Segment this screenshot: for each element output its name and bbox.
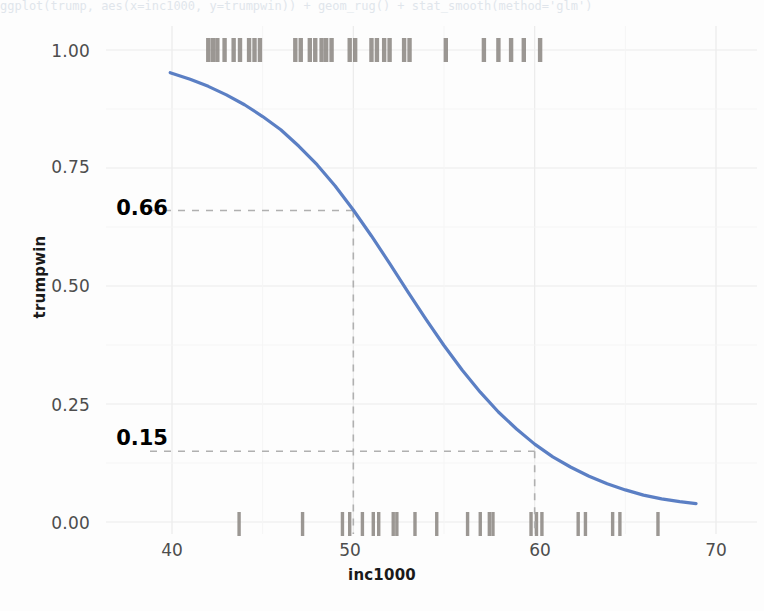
- y-tick-label-000: 0.00: [20, 513, 90, 533]
- annotation-label-066: 0.66: [88, 196, 168, 220]
- chart-canvas: [0, 0, 764, 611]
- chart-screenshot: ggplot(trump, aes(x=inc1000, y=trumpwin)…: [0, 0, 764, 611]
- x-tick-label-40: 40: [142, 540, 202, 560]
- y-tick-label-075: 0.75: [20, 157, 90, 177]
- x-tick-label-50: 50: [320, 540, 380, 560]
- annotation-label-015: 0.15: [88, 426, 168, 450]
- x-tick-label-70: 70: [686, 540, 746, 560]
- rug-marks-bottom: [239, 512, 658, 536]
- y-tick-label-025: 0.25: [20, 395, 90, 415]
- y-tick-label-100: 1.00: [20, 41, 90, 61]
- gridlines: [106, 26, 757, 534]
- x-tick-label-60: 60: [510, 540, 570, 560]
- annotation-guide-lines: [150, 210, 535, 534]
- logistic-fit-curve: [170, 73, 696, 504]
- plot-area: 1.00 0.75 0.50 0.25 0.00 0.66 0.15 40 50…: [0, 0, 764, 611]
- y-axis-title: trumpwin: [31, 217, 49, 337]
- x-axis-title: inc1000: [0, 566, 764, 584]
